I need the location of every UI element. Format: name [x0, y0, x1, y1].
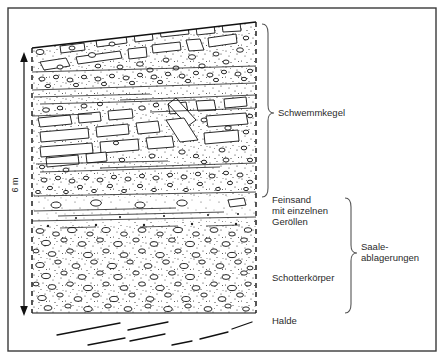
halde-slope-lines — [57, 322, 252, 345]
brace-saale-ablagerungen — [345, 198, 357, 313]
label-feinsand-line3: Geröllen — [272, 216, 308, 227]
label-schwemmkegel: Schwemmkegel — [278, 107, 345, 118]
label-feinsand-line2: mit einzelnen — [272, 205, 328, 216]
label-feinsand-group: Feinsand mit einzelnen Geröllen — [272, 194, 328, 227]
cross-section-svg: 6 m Schwemmkegel Feinsand mit einzelnen … — [0, 0, 444, 359]
scale-arrow-down-icon — [20, 306, 28, 316]
scale-label: 6 m — [10, 177, 20, 192]
geological-cross-section-figure: 6 m Schwemmkegel Feinsand mit einzelnen … — [0, 0, 444, 359]
label-saale-group: Saale- ablagerungen — [361, 241, 419, 263]
brace-schwemmkegel — [262, 24, 274, 197]
label-saale-line2: ablagerungen — [361, 252, 419, 263]
label-halde: Halde — [272, 315, 297, 326]
label-feinsand-line1: Feinsand — [272, 194, 311, 205]
label-saale-line1: Saale- — [361, 241, 388, 252]
scale-arrow-up-icon — [20, 52, 28, 62]
label-schotterkoerper: Schotterkörper — [272, 272, 334, 283]
scale-bar — [20, 52, 28, 316]
